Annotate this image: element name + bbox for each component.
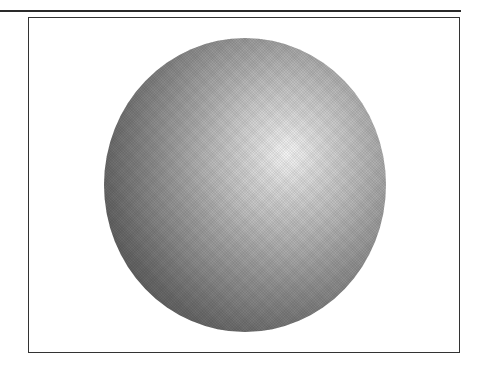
- top-rule: [0, 10, 461, 12]
- shaded-sphere: [104, 38, 386, 332]
- halftone-texture: [104, 38, 386, 332]
